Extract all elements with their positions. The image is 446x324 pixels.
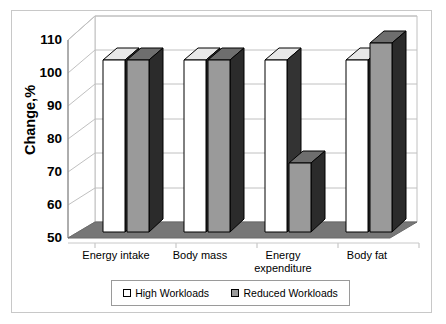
bar-body-fat-reduced-workloads [370, 31, 406, 232]
bar-group-energy-intake [103, 48, 163, 232]
bar-group-body-fat [346, 31, 406, 232]
legend-swatch-icon-high-workloads [123, 289, 131, 297]
legend-item-high-workloads[interactable]: High Workloads [123, 287, 209, 299]
chart-legend: High Workloads Reduced Workloads [111, 280, 350, 306]
x-category-body-fat: Body fat [322, 249, 412, 262]
category-separators [95, 243, 419, 248]
legend-label-high-workloads: High Workloads [135, 287, 209, 299]
chart-figure: Change,% 110 100 90 80 70 60 50 Energy i… [0, 0, 446, 324]
bar-energy-intake-reduced-workloads [127, 48, 163, 232]
bar-chart-canvas [0, 0, 446, 324]
plot-area: Change,% 110 100 90 80 70 60 50 Energy i… [0, 0, 446, 324]
y-tick-110: 110 [28, 33, 62, 47]
y-tick-70: 70 [28, 165, 62, 179]
bar-group-body-mass [184, 48, 244, 232]
y-tick-100: 100 [28, 66, 62, 80]
legend-label-reduced-workloads: Reduced Workloads [243, 287, 337, 299]
x-category-energy-intake: Energy intake [70, 249, 162, 262]
bar-body-mass-reduced-workloads [208, 48, 244, 232]
y-tick-90: 90 [28, 99, 62, 113]
y-tick-80: 80 [28, 132, 62, 146]
y-tick-60: 60 [28, 198, 62, 212]
bar-energy-expenditure-reduced-workloads [289, 151, 325, 232]
x-category-body-mass: Body mass [155, 249, 245, 262]
legend-swatch-icon-reduced-workloads [231, 289, 239, 297]
legend-item-reduced-workloads[interactable]: Reduced Workloads [231, 287, 337, 299]
y-axis-title: Change,% [22, 68, 38, 172]
x-category-energy-expenditure: Energy expenditure [238, 249, 328, 274]
y-tick-50: 50 [28, 231, 62, 245]
